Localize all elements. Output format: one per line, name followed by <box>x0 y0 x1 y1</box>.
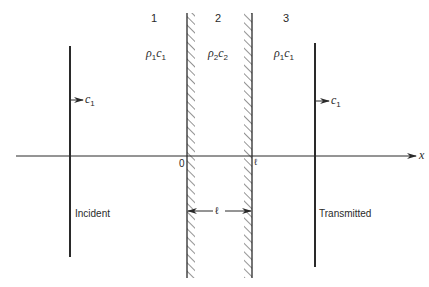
right-wall <box>244 13 252 278</box>
region-3-number: 3 <box>283 13 289 24</box>
region-1-number: 1 <box>151 13 157 24</box>
transmitted-speed-label: c1 <box>331 95 341 110</box>
left-wall <box>187 13 195 278</box>
dimension-label: ℓ <box>215 205 218 216</box>
transmitted-label: Transmitted <box>319 208 371 219</box>
incident-speed-label: c1 <box>85 94 95 109</box>
diagram-canvas <box>0 0 429 287</box>
region-3-medium: ρ1c1 <box>274 48 294 63</box>
region-2-number: 2 <box>215 13 221 24</box>
origin-label: 0 <box>179 158 185 169</box>
region-2-medium: ρ2c2 <box>208 48 228 63</box>
x-axis-label: x <box>419 150 424 161</box>
wall-position-label: ℓ <box>254 157 257 168</box>
incident-label: Incident <box>75 208 110 219</box>
region-1-medium: ρ1c1 <box>146 48 166 63</box>
